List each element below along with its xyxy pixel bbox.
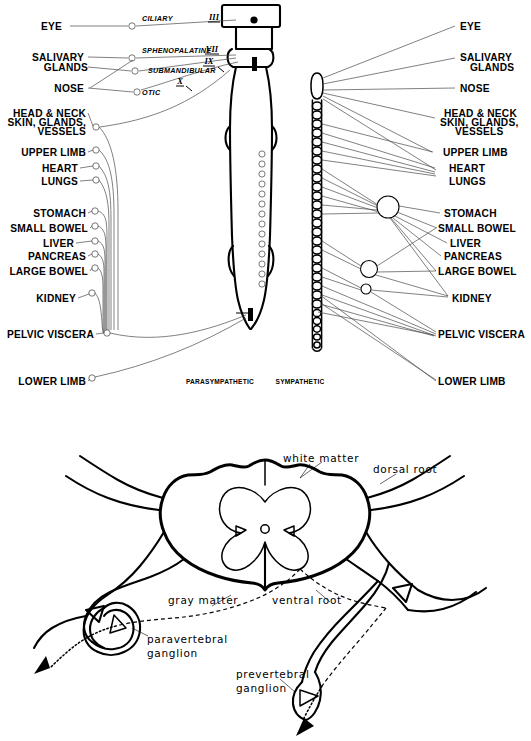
right-label-lower-limb: LOWER LIMB <box>438 376 506 387</box>
left-label-stomach: STOMACH <box>33 208 86 219</box>
footer-parasympathetic: PARASYMPATHETIC <box>186 378 254 385</box>
left-label-upper-limb: UPPER LIMB <box>21 147 86 158</box>
left-label-small-bowel: SMALL BOWEL <box>10 223 88 234</box>
right-target-labels: EYE SALIVARY GLANDS NOSE HEAD & NECK SKI… <box>438 21 525 387</box>
roman-numeral-ix: IX <box>204 56 214 66</box>
arrowhead-right <box>296 718 314 736</box>
left-label-lower-limb: LOWER LIMB <box>18 376 86 387</box>
left-label-glands: GLANDS <box>44 62 88 73</box>
right-label-stomach: STOMACH <box>444 208 497 219</box>
sympathetic-chain <box>311 73 323 351</box>
prevertebral-ganglia <box>361 196 400 294</box>
left-label-eye: EYE <box>41 21 62 32</box>
label-prevertebral: prevertebral <box>236 668 310 680</box>
top-figure-autonomic-outflow: EYE SALIVARY GLANDS NOSE HEAD & NECK SKI… <box>0 0 531 430</box>
left-target-labels: EYE SALIVARY GLANDS NOSE HEAD & NECK SKI… <box>7 21 94 387</box>
label-paravertebral: paravertebral <box>147 633 228 645</box>
right-label-pelvic-viscera: PELVIC VISCERA <box>438 329 525 340</box>
nerve-label-submandibular: SUBMANDIBULAR <box>148 66 216 75</box>
label-ventral-root: ventral root <box>272 594 342 606</box>
ciliary-ganglion <box>129 23 135 29</box>
right-label-vessels: VESSELS <box>455 126 503 137</box>
label-prevertebral-ganglion: ganglion <box>236 682 287 694</box>
label-dorsal-root: dorsal root <box>373 463 437 475</box>
submandibular-ganglion <box>132 68 138 74</box>
label-paravertebral-ganglion: ganglion <box>147 647 198 659</box>
superior-mesenteric-ganglion <box>361 261 378 278</box>
right-label-kidney: KIDNEY <box>452 293 492 304</box>
left-label-vessels: VESSELS <box>38 126 86 137</box>
right-label-small-bowel: SMALL BOWEL <box>438 223 516 234</box>
lateral-horn-cell-left <box>236 526 246 536</box>
left-label-heart: HEART <box>42 163 79 174</box>
footer-sympathetic: SYMPATHETIC <box>275 378 324 385</box>
lateral-horn-cell-right <box>284 526 294 536</box>
nucleus-iii-dot <box>250 16 257 23</box>
otic-ganglion <box>134 89 140 95</box>
central-canal <box>261 525 269 533</box>
right-label-liver: LIVER <box>450 238 481 249</box>
bottom-figure-spinal-cross-section: white matter dorsal root gray matter ven… <box>0 430 531 741</box>
right-root-opening <box>393 584 412 602</box>
arrowhead-left <box>34 656 50 674</box>
label-gray-matter: gray matter <box>168 594 238 606</box>
paravertebral-ganglion-cell <box>110 615 126 633</box>
left-label-kidney: KIDNEY <box>36 293 76 304</box>
nucleus-vii-ix-bar <box>252 57 257 71</box>
right-label-heart: HEART <box>449 163 486 174</box>
left-label-large-bowel: LARGE BOWEL <box>9 266 88 277</box>
left-label-lungs: LUNGS <box>41 176 78 187</box>
spinal-nerve-right <box>293 532 486 720</box>
right-label-upper-limb: UPPER LIMB <box>443 147 508 158</box>
left-label-pelvic-viscera: PELVIC VISCERA <box>7 329 94 340</box>
left-label-nose: NOSE <box>54 83 84 94</box>
left-label-liver: LIVER <box>43 238 74 249</box>
label-white-matter: white matter <box>283 452 359 464</box>
roman-numeral-iii: III <box>208 12 220 22</box>
right-label-lungs: LUNGS <box>449 176 486 187</box>
right-label-pancreas: PANCREAS <box>444 251 502 262</box>
nerve-label-otic: OTIC <box>142 88 161 97</box>
nerve-label-ciliary: CILIARY <box>142 14 174 23</box>
right-label-eye: EYE <box>460 21 481 32</box>
cord-lateral-cell-circles <box>259 151 265 287</box>
inferior-mesenteric-ganglion <box>361 284 371 294</box>
roman-numeral-vii: VII <box>206 44 219 54</box>
sacral-outflow-bar <box>248 308 253 321</box>
nerve-label-sphenopalatine: SPHENOPALATINE <box>142 46 211 55</box>
left-label-pancreas: PANCREAS <box>28 251 86 262</box>
brain-and-spinal-cord-outline <box>222 5 280 329</box>
diagram-page: EYE SALIVARY GLANDS NOSE HEAD & NECK SKI… <box>0 0 531 741</box>
celiac-ganglion <box>377 196 399 218</box>
right-label-nose: NOSE <box>460 83 490 94</box>
right-label-large-bowel: LARGE BOWEL <box>438 266 517 277</box>
roman-numeral-x: X <box>176 76 183 86</box>
right-label-glands: GLANDS <box>470 62 514 73</box>
